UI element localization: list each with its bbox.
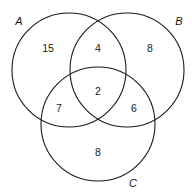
region-a-and-c: 7 [56, 102, 62, 114]
circle-b [70, 13, 184, 127]
region-a-and-b: 4 [95, 42, 101, 54]
circle-a [12, 13, 126, 127]
region-a-b-c: 2 [95, 85, 101, 97]
region-c-only: 8 [95, 146, 101, 158]
venn-diagram: A B C 15 4 8 2 7 6 8 [0, 0, 194, 194]
region-b-and-c: 6 [131, 102, 137, 114]
set-label-c: C [129, 177, 137, 189]
region-a-only: 15 [42, 42, 54, 54]
set-label-a: A [14, 15, 22, 27]
region-b-only: 8 [147, 42, 153, 54]
set-label-b: B [175, 15, 182, 27]
